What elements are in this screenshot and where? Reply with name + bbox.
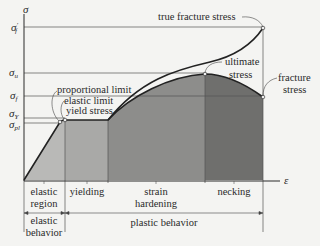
ultimate-stress-label-2: stress — [229, 69, 252, 80]
elastic-behavior-label-2: behavior — [26, 227, 63, 238]
ultimate-leader — [205, 62, 222, 73]
fracture-stress-label-2: stress — [283, 84, 306, 95]
proportional-limit-label: proportional limit — [57, 84, 131, 95]
true-fracture-stress-label: true fracture stress — [158, 11, 236, 22]
y-axis-label: σ — [23, 3, 29, 15]
fracture-stress-label-1: fracture — [278, 72, 311, 83]
sigma-fracture-label: σf — [10, 89, 18, 103]
x-axis-label: ε — [284, 174, 289, 186]
ultimate-stress-label-1: ultimate — [225, 56, 260, 67]
proportional-leader — [52, 91, 59, 121]
strain-hardening-label-2: hardening — [135, 198, 178, 209]
yielding-region-fill — [65, 120, 108, 180]
elastic-region-label-2: region — [31, 198, 59, 209]
necking-label: necking — [217, 186, 251, 197]
strain-hardening-label-1: strain — [144, 186, 168, 197]
plastic-behavior-label: plastic behavior — [131, 217, 198, 228]
yield-stress-label: yield stress — [66, 105, 113, 116]
stress-strain-diagram: σ ε σ′f σu σf σY σpl true fracture stres… — [0, 0, 320, 246]
fracture-leader — [263, 78, 277, 96]
true-fracture-leader — [242, 17, 263, 27]
sigma-ultimate-label: σu — [9, 66, 18, 80]
yielding-label: yielding — [70, 186, 105, 197]
elastic-region-label-1: elastic — [31, 186, 58, 197]
necking-fill — [205, 74, 263, 180]
plastic-region-arrow — [65, 212, 263, 215]
elastic-behavior-label-1: elastic — [31, 215, 58, 226]
sigma-true-fracture-label: σ′f — [11, 21, 18, 35]
